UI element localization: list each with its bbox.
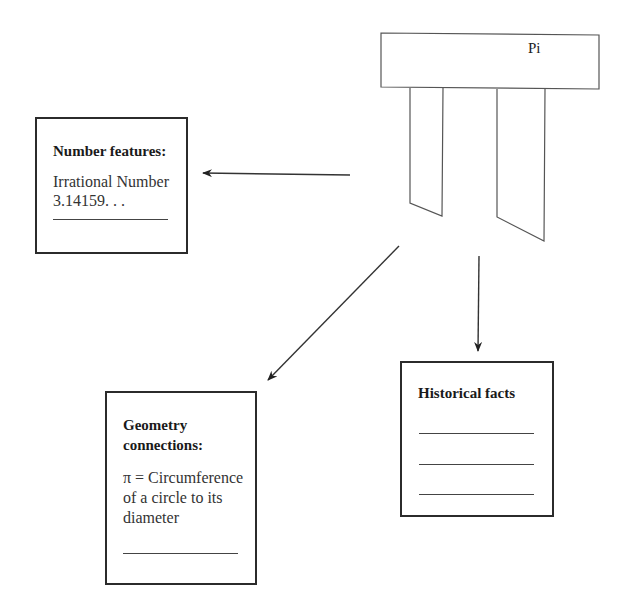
number-features-title: Number features: — [53, 141, 166, 161]
diagram-lines — [0, 0, 626, 614]
geometry-connections-box: Geometry connections: π = Circumference … — [105, 391, 257, 585]
historical-facts-box: Historical facts — [400, 361, 554, 517]
historical-facts-title: Historical facts — [418, 383, 515, 403]
arrow-to-geometry-connections — [268, 246, 399, 380]
geometry-connections-title-2: connections: — [123, 435, 203, 455]
geometry-connections-line-3: diameter — [123, 508, 179, 528]
number-features-blank-line — [53, 219, 168, 220]
central-topic-label: Pi — [528, 40, 541, 57]
number-features-box: Number features: Irrational Number 3.141… — [35, 117, 188, 254]
arrow-to-number-features — [203, 173, 350, 175]
historical-facts-blank-line-2 — [419, 464, 534, 465]
geometry-connections-title-1: Geometry — [123, 415, 187, 435]
banner-leg-right — [497, 89, 545, 241]
number-features-line-1: Irrational Number — [53, 172, 169, 192]
number-features-line-2: 3.14159. . . — [53, 191, 125, 211]
geometry-connections-line-2: of a circle to its — [123, 488, 223, 508]
historical-facts-blank-line-3 — [419, 494, 534, 495]
geometry-connections-line-1: π = Circumference — [123, 468, 243, 488]
pi-banner — [381, 33, 599, 89]
arrow-to-historical-facts — [478, 256, 479, 351]
historical-facts-blank-line-1 — [419, 433, 534, 434]
banner-leg-left — [410, 88, 443, 216]
geometry-connections-blank-line — [123, 553, 238, 554]
